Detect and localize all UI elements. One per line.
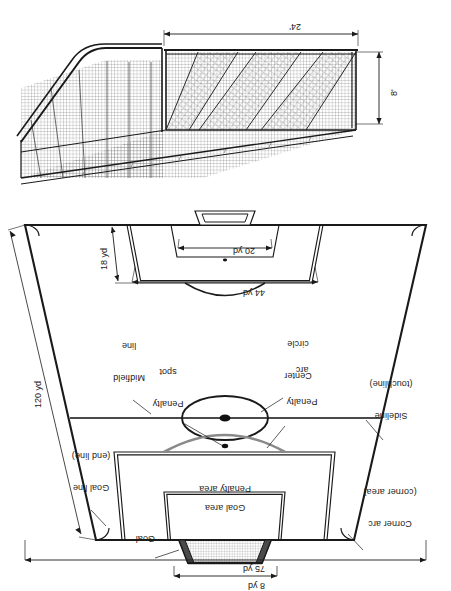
callout-corner-arc: Corner arc (corner area) (335, 466, 445, 550)
callout-goal: Goal (136, 513, 155, 566)
dim-line-goal-width (164, 30, 358, 46)
callout-goal-line: Goal line (end line) (49, 430, 133, 514)
dim-text-goal-area-depth: 20 yd (195, 246, 255, 256)
dim-text-goal-area-width: 8 yd (185, 581, 265, 591)
field-plan-panel: Corner arc (corner area) Goal Goal area … (0, 180, 451, 570)
penalty-spot-near (223, 259, 227, 262)
callout-center-circle: Center circle (267, 318, 329, 402)
dim-text-penalty-area-depth: 18 yd (99, 248, 109, 270)
dim-text-field-width: 75 yd (185, 564, 265, 574)
dim-line-goal-height (355, 52, 383, 124)
goal-near (195, 211, 255, 225)
callout-midfield-line: Midfield line (97, 320, 161, 404)
goal-detail-panel: 24' 8' (0, 0, 451, 180)
callout-sideline: Sideline (touchline) (345, 358, 437, 442)
dim-text-goal-width: 24' (221, 22, 301, 32)
dim-text-goal-height: 8' (389, 89, 399, 96)
dim-text-penalty-area-width: 44 yd (185, 288, 265, 298)
goal-far (179, 540, 271, 563)
dim-text-field-length: 120 yd (33, 381, 43, 408)
callout-penalty-area: Penalty area (175, 463, 275, 516)
